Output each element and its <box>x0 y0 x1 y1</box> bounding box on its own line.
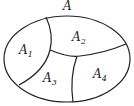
partition-diagram: A A1 A2 A3 A4 <box>0 0 134 106</box>
set-label-a: A <box>62 0 72 13</box>
boundary-a3-a4 <box>72 56 77 102</box>
region-label-a1: A1 <box>18 43 33 59</box>
boundary-a2 <box>50 44 126 56</box>
region-label-a3: A3 <box>42 71 57 87</box>
region-label-a4: A4 <box>92 67 107 83</box>
region-label-a2: A2 <box>71 30 86 46</box>
set-a-ellipse <box>4 16 130 102</box>
